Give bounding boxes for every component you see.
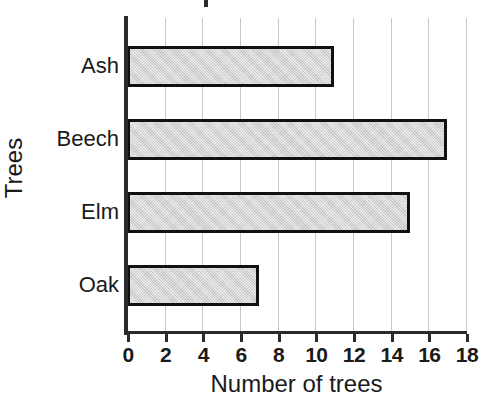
- x-tick-label-0: 0: [108, 343, 148, 367]
- x-tick-14: [391, 334, 394, 342]
- x-tick-label-6: 6: [221, 343, 261, 367]
- y-axis-title: Trees: [1, 108, 27, 228]
- x-tick-6: [240, 334, 243, 342]
- x-tick-label-12: 12: [334, 343, 374, 367]
- x-axis-line: [124, 331, 467, 334]
- x-axis-title: Number of trees: [127, 370, 466, 398]
- y-category-label-oak: Oak: [0, 273, 119, 297]
- bar-beech: [127, 119, 466, 160]
- x-tick-16: [428, 334, 431, 342]
- x-tick-label-18: 18: [447, 343, 487, 367]
- cropped-title-remnant: [204, 0, 208, 7]
- bar-elm: [127, 192, 466, 233]
- bar-rect-oak: [127, 265, 259, 306]
- x-tick-8: [278, 334, 281, 342]
- x-tick-18: [466, 334, 469, 342]
- plot-area: [127, 18, 466, 333]
- x-tick-label-2: 2: [146, 343, 186, 367]
- x-tick-label-14: 14: [372, 343, 412, 367]
- x-tick-label-16: 16: [409, 343, 449, 367]
- bar-oak: [127, 265, 466, 306]
- x-tick-10: [315, 334, 318, 342]
- bar-rect-ash: [127, 46, 334, 87]
- y-axis-line: [124, 16, 128, 335]
- x-tick-label-8: 8: [259, 343, 299, 367]
- x-tick-12: [353, 334, 356, 342]
- bar-rect-elm: [127, 192, 410, 233]
- x-tick-label-10: 10: [296, 343, 336, 367]
- x-tick-2: [165, 334, 168, 342]
- x-tick-0: [127, 334, 130, 342]
- x-tick-label-4: 4: [183, 343, 223, 367]
- x-tick-4: [202, 334, 205, 342]
- bar-chart-figure: 024681012141618 AshBeechElmOak Number of…: [0, 0, 493, 414]
- y-category-label-ash: Ash: [0, 54, 119, 78]
- gridline-x-18: [466, 18, 467, 333]
- bar-ash: [127, 46, 466, 87]
- bar-rect-beech: [127, 119, 447, 160]
